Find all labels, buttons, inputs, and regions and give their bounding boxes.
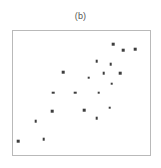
data-point	[74, 91, 77, 94]
data-point	[134, 48, 137, 51]
data-point	[52, 91, 55, 94]
data-point	[34, 120, 37, 123]
data-point	[17, 140, 20, 143]
data-point	[108, 106, 111, 109]
data-point	[102, 72, 105, 75]
data-point	[112, 43, 115, 46]
data-point	[110, 83, 113, 86]
plot-area	[13, 31, 150, 155]
data-point	[97, 91, 100, 94]
figure-caption: (b)	[0, 10, 161, 22]
data-point	[96, 117, 99, 120]
data-point	[83, 109, 86, 112]
scatter-figure: (b)	[0, 0, 161, 168]
data-point	[62, 71, 65, 74]
data-point	[119, 72, 122, 75]
data-point	[51, 110, 54, 113]
data-point	[42, 138, 45, 141]
data-point	[96, 60, 99, 63]
data-point	[88, 77, 91, 80]
data-point	[122, 49, 125, 52]
plot-frame	[12, 30, 151, 156]
data-point	[109, 63, 112, 66]
